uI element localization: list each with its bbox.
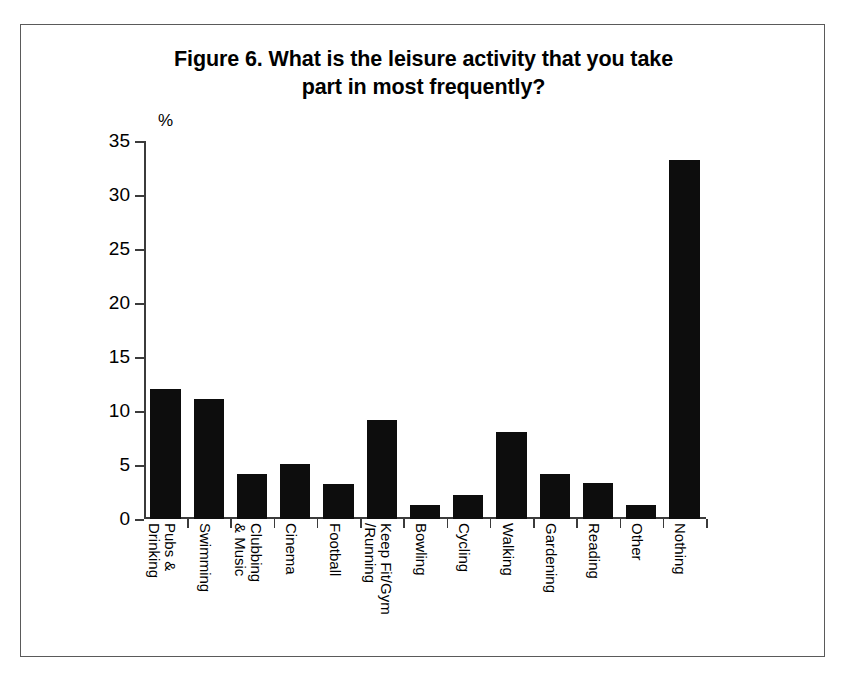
bar[interactable] xyxy=(410,505,440,519)
y-axis-tick-mark xyxy=(135,519,144,521)
x-axis-category-label: Bowling xyxy=(413,523,429,576)
x-axis-category-labels: Pubs &DrinkingSwimmingClubbing& MusicCin… xyxy=(144,523,706,673)
bars-layer xyxy=(144,141,706,519)
y-axis-tick-label: 10 xyxy=(109,400,130,422)
chart-title: Figure 6. What is the leisure activity t… xyxy=(91,45,756,102)
y-axis-tick-mark xyxy=(135,141,144,143)
x-axis-tick-mark xyxy=(706,519,708,528)
y-axis-tick-mark xyxy=(135,303,144,305)
x-axis-category-label: Nothing xyxy=(672,523,688,575)
x-axis-category-label: Pubs &Drinking xyxy=(145,523,177,578)
x-axis-category-label-line: Gardening xyxy=(543,523,559,593)
x-axis-category-label: Clubbing& Music xyxy=(232,523,264,582)
bar[interactable] xyxy=(583,483,613,519)
x-axis-category-label-line: Cinema xyxy=(283,523,299,575)
bar[interactable] xyxy=(194,399,224,519)
y-axis-tick-mark xyxy=(135,411,144,413)
x-axis-category-label-line: Football xyxy=(326,523,342,576)
x-axis-category-label-line: Cycling xyxy=(456,523,472,572)
x-axis-category-label-line: Drinking xyxy=(145,523,161,578)
bar[interactable] xyxy=(540,474,570,519)
x-axis-category-label: Other xyxy=(629,523,645,561)
y-axis-tick-label: 0 xyxy=(119,508,130,530)
x-axis-category-label-line: /Running xyxy=(362,523,378,615)
y-axis-tick-label: 5 xyxy=(119,454,130,476)
x-axis-category-label-line: Walking xyxy=(499,523,515,576)
x-axis-category-label: Walking xyxy=(499,523,515,576)
bar[interactable] xyxy=(669,160,699,519)
y-axis-tick-label: 20 xyxy=(109,292,130,314)
chart-title-line-1: Figure 6. What is the leisure activity t… xyxy=(91,45,756,73)
bar[interactable] xyxy=(367,420,397,519)
y-axis-unit-label: % xyxy=(158,111,173,131)
x-axis-category-label: Gardening xyxy=(543,523,559,593)
x-axis-category-label-line: Pubs & xyxy=(162,523,178,578)
bar[interactable] xyxy=(323,484,353,519)
y-axis-tick-mark xyxy=(135,465,144,467)
x-axis-category-label: Swimming xyxy=(197,523,213,592)
y-axis-tick-mark xyxy=(135,195,144,197)
y-axis-tick-label: 30 xyxy=(109,184,130,206)
x-axis-category-label-line: & Music xyxy=(232,523,248,582)
x-axis-category-label-line: Reading xyxy=(586,523,602,579)
x-axis-category-label-line: Swimming xyxy=(197,523,213,592)
x-axis-category-label: Keep Fit/Gym/Running xyxy=(362,523,394,615)
y-axis-tick-label: 25 xyxy=(109,238,130,260)
chart-title-line-2: part in most frequently? xyxy=(91,73,756,101)
x-axis-category-label: Cycling xyxy=(456,523,472,572)
x-axis-category-label-line: Keep Fit/Gym xyxy=(378,523,394,615)
y-axis-tick-mark xyxy=(135,249,144,251)
y-axis-tick-label: 15 xyxy=(109,346,130,368)
plot-area: % 05101520253035 xyxy=(144,141,706,519)
x-axis-category-label: Cinema xyxy=(283,523,299,575)
bar[interactable] xyxy=(237,474,267,519)
figure-frame: Figure 6. What is the leisure activity t… xyxy=(20,24,825,657)
x-axis-category-label: Reading xyxy=(586,523,602,579)
y-axis-tick-label: 35 xyxy=(109,130,130,152)
x-axis-category-label-line: Bowling xyxy=(413,523,429,576)
x-axis-category-label-line: Nothing xyxy=(672,523,688,575)
bar[interactable] xyxy=(453,495,483,519)
x-axis-category-label-line: Other xyxy=(629,523,645,561)
bar[interactable] xyxy=(280,464,310,519)
bar[interactable] xyxy=(496,432,526,519)
y-axis-tick-mark xyxy=(135,357,144,359)
x-axis-category-label: Football xyxy=(326,523,342,576)
bar[interactable] xyxy=(626,505,656,519)
x-axis-category-label-line: Clubbing xyxy=(248,523,264,582)
bar[interactable] xyxy=(150,389,180,519)
